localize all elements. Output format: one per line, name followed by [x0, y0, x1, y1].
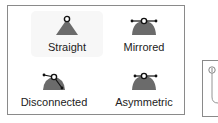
handle-type-popover: Straight Mirrored Disconnected — [7, 5, 185, 115]
secondary-panel — [202, 60, 218, 117]
mirrored-handle-icon — [127, 15, 161, 37]
option-disconnected[interactable]: Disconnected — [18, 66, 90, 112]
option-label: Straight — [31, 41, 103, 53]
option-asymmetric[interactable]: Asymmetric — [108, 66, 180, 112]
asymmetric-handle-icon — [127, 70, 161, 92]
option-mirrored[interactable]: Mirrored — [108, 11, 180, 57]
path-preview-icon — [205, 63, 218, 113]
option-straight[interactable]: Straight — [31, 11, 103, 57]
option-label: Asymmetric — [108, 96, 180, 108]
disconnected-handle-icon — [37, 70, 71, 92]
option-label: Mirrored — [108, 41, 180, 53]
option-label: Disconnected — [18, 96, 90, 108]
straight-handle-icon — [52, 15, 82, 37]
